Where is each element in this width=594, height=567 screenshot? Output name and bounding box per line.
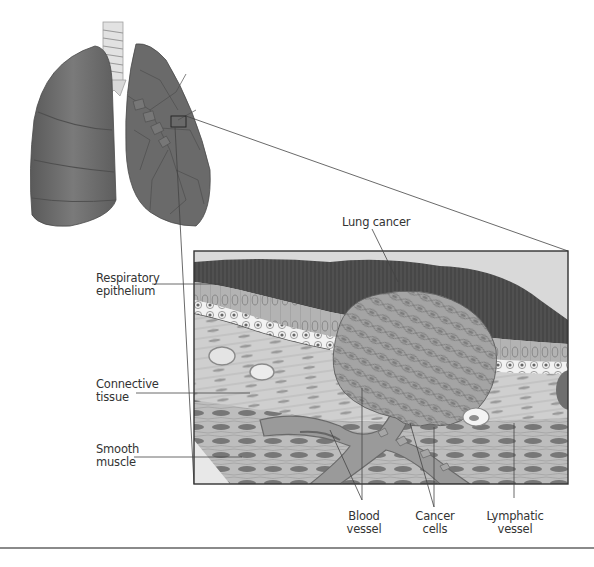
- label-blood-vessel: Blood vessel: [342, 510, 386, 536]
- left-lung: [126, 44, 211, 226]
- label-lymphatic-vessel: Lymphatic vessel: [484, 510, 546, 536]
- page-divider: [0, 547, 594, 549]
- label-respiratory-epithelium: Respiratory epithelium: [96, 272, 160, 298]
- tissue-cross-section: [194, 251, 584, 484]
- label-cancer-cells: Cancer cells: [412, 510, 458, 536]
- label-smooth-muscle: Smooth muscle: [96, 443, 139, 469]
- label-lung-cancer: Lung cancer: [342, 216, 410, 229]
- right-lung: [30, 46, 116, 226]
- lung-cancer-diagram: [0, 0, 594, 567]
- label-connective-tissue: Connective tissue: [96, 378, 159, 404]
